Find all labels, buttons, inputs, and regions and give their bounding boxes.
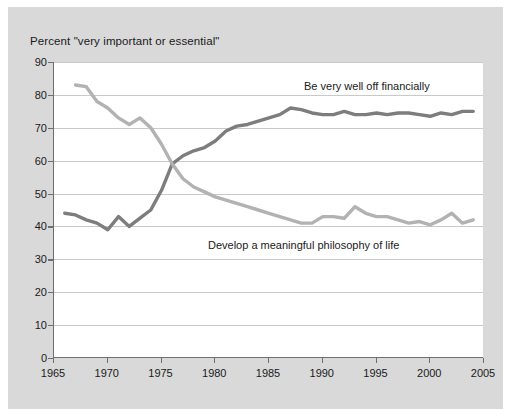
x-axis-tick-mark [107,358,108,363]
x-axis-tick-mark [161,358,162,363]
y-axis-tick-label: 70 [21,122,47,134]
series-line-philosophy [76,85,474,225]
x-axis-tick-label: 1965 [41,367,65,379]
x-axis-tick-mark [53,358,54,363]
y-axis-tick-label: 80 [21,89,47,101]
y-axis-tick-label: 60 [21,155,47,167]
x-axis-tick-label: 1975 [148,367,172,379]
x-axis-tick-mark [214,358,215,363]
y-axis-tick-label: 40 [21,220,47,232]
page-title: Percent "very important or essential" [30,35,220,47]
x-axis-tick-label: 1990 [310,367,334,379]
series-line-financial [65,108,474,230]
plot-area [53,62,483,358]
y-axis-tick-label: 10 [21,319,47,331]
x-axis-tick-label: 2005 [471,367,495,379]
x-axis-tick-label: 2000 [417,367,441,379]
y-axis-tick-label: 20 [21,286,47,298]
series-lines [54,62,484,358]
y-axis-tick-label: 0 [21,352,47,364]
x-axis-tick-label: 1980 [202,367,226,379]
y-axis-tick-label: 90 [21,56,47,68]
series-label-financial: Be very well off financially [304,80,430,92]
y-axis-tick-label: 30 [21,253,47,265]
x-axis-tick-label: 1985 [256,367,280,379]
x-axis-tick-label: 1970 [95,367,119,379]
x-axis-tick-mark [429,358,430,363]
x-axis-tick-mark [322,358,323,363]
x-axis-tick-mark [483,358,484,363]
x-axis-tick-label: 1995 [363,367,387,379]
series-label-philosophy: Develop a meaningful philosophy of life [208,239,399,251]
y-axis-tick-label: 50 [21,188,47,200]
x-axis-tick-mark [268,358,269,363]
chart-figure: Percent "very important or essential" 01… [8,7,503,409]
x-axis-tick-mark [376,358,377,363]
